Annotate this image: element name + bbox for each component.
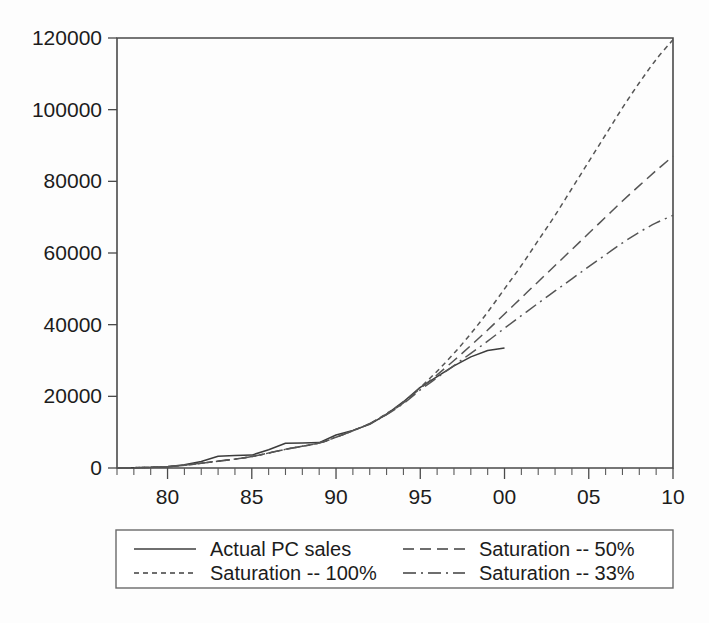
y-tick-label-0: 0 — [90, 456, 102, 479]
x-tick-label-80: 80 — [156, 485, 179, 508]
x-tick-label-10: 10 — [661, 485, 684, 508]
x-tick-label-90: 90 — [324, 485, 347, 508]
chart-container: 020000400006000080000100000120000 808590… — [0, 0, 709, 623]
x-tick-label-05: 05 — [577, 485, 600, 508]
pc-sales-saturation-chart: 020000400006000080000100000120000 808590… — [0, 0, 709, 623]
legend-label-saturation-33: Saturation -- 33% — [479, 562, 635, 584]
y-tick-label-40000: 40000 — [44, 313, 102, 336]
x-tick-label-95: 95 — [409, 485, 432, 508]
y-tick-label-20000: 20000 — [44, 384, 102, 407]
chart-legend: Actual PC salesSaturation -- 50%Saturati… — [116, 530, 673, 588]
y-tick-label-100000: 100000 — [32, 98, 102, 121]
y-tick-label-60000: 60000 — [44, 241, 102, 264]
legend-label-saturation-50: Saturation -- 50% — [479, 538, 635, 560]
x-tick-label-00: 00 — [493, 485, 516, 508]
legend-label-saturation-100: Saturation -- 100% — [210, 562, 377, 584]
x-tick-label-85: 85 — [240, 485, 263, 508]
legend-label-actual-pc-sales: Actual PC sales — [210, 538, 351, 560]
y-tick-label-120000: 120000 — [32, 26, 102, 49]
y-tick-label-80000: 80000 — [44, 169, 102, 192]
